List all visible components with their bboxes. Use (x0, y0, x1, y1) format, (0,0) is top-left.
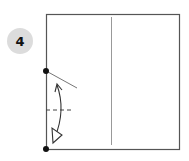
fold-arrow-icon (55, 85, 61, 137)
reference-point-top (43, 68, 49, 74)
reference-line (48, 72, 77, 88)
reference-point-bottom (43, 146, 49, 152)
origami-fold-diagram (0, 0, 189, 161)
